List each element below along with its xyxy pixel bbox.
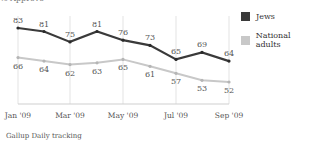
legend-swatch-jews [241,12,250,21]
svg-text:81: 81 [92,20,102,29]
svg-text:73: 73 [145,33,155,42]
svg-text:76: 76 [118,28,128,37]
svg-text:Mar '09: Mar '09 [55,111,85,120]
svg-text:83: 83 [13,16,23,25]
svg-text:53: 53 [197,84,207,93]
x-axis-labels: Jan '09Mar '09May '09Jul '09Sep '09 [4,111,244,120]
svg-text:Sep '09: Sep '09 [215,111,244,120]
data-labels: 838175817673656964666462636561575352 [13,16,234,95]
svg-text:65: 65 [171,47,181,56]
svg-text:64: 64 [224,49,234,58]
legend-label: Jews [256,12,275,21]
svg-text:61: 61 [145,70,155,79]
legend-label: National adults [256,31,316,49]
svg-text:81: 81 [39,20,49,29]
svg-text:66: 66 [13,62,23,71]
source-note: Gallup Daily tracking [6,132,82,140]
svg-text:Jan '09: Jan '09 [4,111,32,120]
legend-item-national-adults: National adults [241,34,316,46]
svg-text:Jul '09: Jul '09 [163,111,188,120]
legend: Jews National adults [241,10,316,58]
svg-text:57: 57 [171,77,181,86]
svg-text:64: 64 [39,65,49,74]
svg-text:65: 65 [118,63,128,72]
svg-text:63: 63 [92,67,102,76]
svg-text:69: 69 [197,40,207,49]
svg-text:62: 62 [65,69,75,78]
legend-swatch-national-adults [241,36,250,45]
svg-text:52: 52 [224,86,234,95]
svg-text:May '09: May '09 [108,111,139,120]
svg-text:75: 75 [65,30,75,39]
legend-item-jews: Jews [241,10,316,22]
